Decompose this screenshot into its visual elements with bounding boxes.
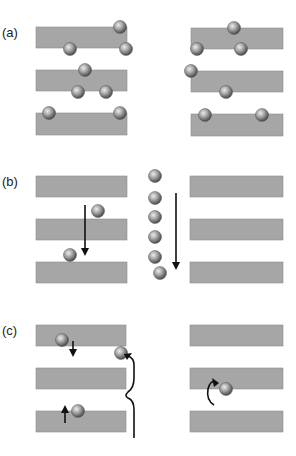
particle-sphere-icon: [149, 192, 162, 205]
particle-sphere-icon: [92, 205, 105, 218]
membrane-bar: [36, 325, 126, 346]
particle-sphere-icon: [120, 43, 133, 56]
panel-label-b: (b): [2, 174, 18, 189]
membrane-bar: [36, 219, 127, 240]
membrane-bar: [190, 325, 283, 346]
particle-sphere-icon: [115, 347, 128, 360]
particle-sphere-icon: [43, 107, 56, 120]
particle-sphere-icon: [185, 65, 198, 78]
membrane-bar: [36, 262, 127, 283]
membrane-bar: [190, 411, 283, 432]
particle-sphere-icon: [72, 86, 85, 99]
panel-label-c: (c): [2, 323, 17, 338]
particle-sphere-icon: [199, 109, 212, 122]
particle-sphere-icon: [72, 405, 85, 418]
particle-sphere-icon: [64, 249, 77, 262]
particle-sphere-icon: [149, 211, 162, 224]
membrane-bar: [36, 176, 127, 197]
panel-c: (c): [2, 323, 283, 438]
particle-sphere-icon: [56, 334, 69, 347]
particle-sphere-icon: [256, 109, 269, 122]
particle-sphere-icon: [149, 251, 162, 264]
long-jump-wavy-arrow-icon: [126, 356, 134, 438]
particle-sphere-icon: [191, 43, 204, 56]
membrane-bar: [191, 71, 283, 92]
panel-a: (a): [2, 21, 283, 137]
particle-sphere-icon: [149, 231, 162, 244]
panel-b: (b): [2, 170, 283, 284]
particle-sphere-icon: [154, 267, 167, 280]
arrowhead-icon: [172, 262, 180, 270]
diagram-canvas: (a) (b) (c): [0, 0, 296, 456]
membrane-bar: [190, 262, 283, 283]
particle-sphere-icon: [149, 170, 162, 183]
panel-label-a: (a): [2, 25, 18, 40]
particle-sphere-icon: [79, 64, 92, 77]
particle-sphere-icon: [114, 21, 127, 34]
arrowhead-icon: [69, 349, 77, 357]
particle-sphere-icon: [64, 43, 77, 56]
membrane-bar: [190, 219, 283, 240]
particle-sphere-icon: [100, 86, 113, 99]
particle-sphere-icon: [114, 107, 127, 120]
membrane-bar: [190, 368, 283, 389]
membrane-bar: [36, 368, 126, 389]
particle-sphere-icon: [220, 383, 233, 396]
arrowhead-icon: [61, 405, 69, 413]
arrowhead-icon: [81, 248, 89, 256]
particle-sphere-icon: [235, 43, 248, 56]
membrane-bar: [36, 27, 127, 48]
membrane-bar: [190, 176, 283, 197]
particle-sphere-icon: [228, 22, 241, 35]
particle-sphere-icon: [220, 86, 233, 99]
